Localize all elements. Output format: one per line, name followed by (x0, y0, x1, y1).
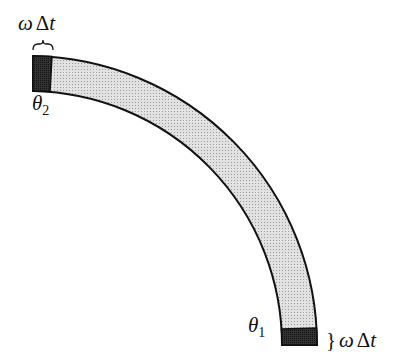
end-segment-theta2 (33, 56, 52, 92)
theta1-label: θ1 (248, 313, 265, 340)
end-segment-theta1 (282, 328, 318, 345)
annulus-band (33, 56, 317, 345)
theta2-label: θ2 (32, 91, 49, 118)
annulus-diagram: ωΔt θ2 θ1 } ωΔt (0, 0, 413, 362)
top-brace-icon (33, 40, 53, 50)
bottom-brace-icon: } (326, 328, 336, 352)
bottom-omega-delta-t-label: ωΔt (339, 328, 377, 352)
top-omega-delta-t-label: ωΔt (18, 11, 56, 35)
